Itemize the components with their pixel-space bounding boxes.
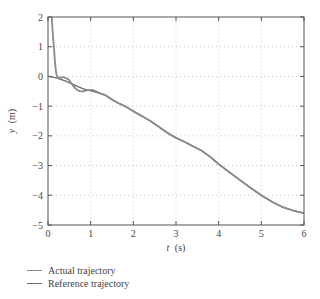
y-tick-label: −4 [32, 190, 43, 201]
legend: Actual trajectory Reference trajectory [27, 264, 129, 290]
legend-swatch-actual [27, 270, 42, 271]
y-tick-label: 0 [38, 71, 43, 82]
x-tick-label: 6 [302, 228, 307, 239]
x-axis-label-unit: (s) [175, 242, 186, 254]
x-tick-label: 4 [216, 228, 221, 239]
legend-swatch-reference [27, 283, 42, 284]
tick-labels: 0123456210−1−2−3−4−5 [32, 12, 306, 240]
legend-label-reference: Reference trajectory [48, 278, 129, 290]
legend-label-actual: Actual trajectory [48, 265, 115, 277]
y-tick-label: −5 [32, 220, 43, 231]
series-actual-trajectory [52, 17, 304, 213]
y-tick-label: 2 [38, 12, 43, 23]
legend-item-reference: Reference trajectory [27, 277, 129, 290]
y-axis-label-unit: (m) [6, 109, 18, 123]
y-tick-label: 1 [38, 41, 43, 52]
y-tick-label: −1 [32, 101, 43, 112]
trajectory-chart: 0123456210−1−2−3−4−5 t (s) y (m) [0, 0, 320, 299]
series-reference-trajectory [48, 76, 304, 213]
grid [48, 17, 304, 225]
x-tick-label: 1 [88, 228, 93, 239]
y-axis-label-var: y [6, 128, 17, 134]
y-tick-label: −3 [32, 160, 43, 171]
legend-item-actual: Actual trajectory [27, 264, 129, 277]
x-tick-label: 0 [46, 228, 51, 239]
x-tick-label: 5 [259, 228, 264, 239]
x-axis-label-var: t [167, 242, 170, 253]
y-axis-label: y (m) [6, 109, 18, 134]
x-tick-label: 3 [174, 228, 179, 239]
x-axis-label: t (s) [167, 242, 186, 254]
y-tick-label: −2 [32, 130, 43, 141]
x-tick-label: 2 [131, 228, 136, 239]
